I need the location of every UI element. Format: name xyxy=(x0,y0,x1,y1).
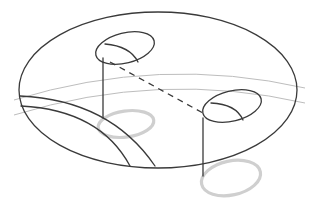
handle-inner-arc-lower xyxy=(211,103,243,120)
handle-ellipse-upper xyxy=(92,26,157,70)
surface-sketch xyxy=(0,0,316,207)
handle-ellipse-lower xyxy=(199,84,264,128)
shadow-ellipse-lower xyxy=(198,155,264,201)
handle-inner-arc-upper xyxy=(105,44,138,62)
dashed-connector xyxy=(110,62,203,113)
diagram-canvas xyxy=(0,0,316,207)
guide-arc-upper xyxy=(14,74,305,100)
